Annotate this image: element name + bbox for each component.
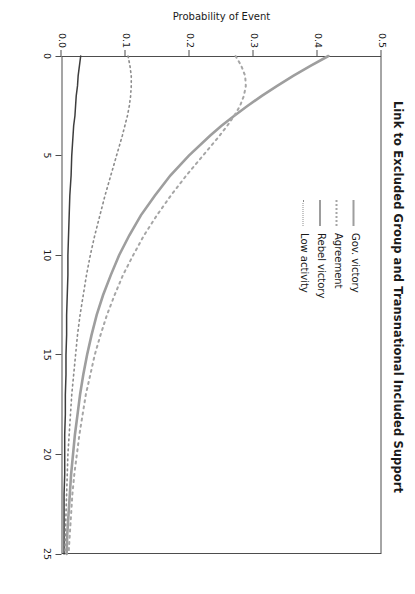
x-tick-mark: [55, 554, 61, 555]
y-tick-label: 0.0: [56, 10, 67, 48]
chart-legend: Gov. victory Agreement Rebel victory Low…: [295, 200, 363, 320]
legend-line-icon: [298, 200, 310, 226]
chart-title: Link to Excluded Group and Transnational…: [390, 0, 404, 594]
rotated-figure-frame: Link to Excluded Group and Transnational…: [0, 0, 415, 594]
y-tick-mark: [125, 50, 126, 56]
x-tick-label: 5: [41, 136, 52, 176]
x-tick-mark: [55, 155, 61, 156]
legend-line-icon: [349, 200, 361, 226]
legend-item-label: Gov. victory: [349, 233, 360, 293]
series-line: [66, 56, 328, 554]
x-tick-label: 10: [41, 235, 52, 275]
y-tick-mark: [381, 50, 382, 56]
legend-item: Low activity: [295, 200, 312, 320]
y-tick-label: 0.5: [376, 10, 387, 48]
legend-line-icon: [315, 200, 327, 226]
x-tick-label: 0: [41, 36, 52, 76]
legend-item-label: Rebel victory: [315, 233, 326, 298]
x-tick-mark: [55, 354, 61, 355]
y-tick-mark: [189, 50, 190, 56]
x-tick-label: 20: [41, 434, 52, 474]
x-tick-label: 25: [41, 534, 52, 574]
y-tick-label: 0.1: [120, 10, 131, 48]
legend-item: Gov. victory: [346, 200, 363, 320]
y-tick-mark: [61, 50, 62, 56]
legend-item: Agreement: [329, 200, 346, 320]
legend-item-label: Agreement: [332, 233, 343, 289]
legend-item: Rebel victory: [312, 200, 329, 320]
legend-line-icon: [332, 200, 344, 226]
y-axis-label: Probability of Event: [172, 11, 270, 22]
y-tick-label: 0.4: [312, 10, 323, 48]
series-line: [68, 56, 245, 554]
x-tick-label: 15: [41, 335, 52, 375]
chart-canvas: Link to Excluded Group and Transnational…: [0, 0, 415, 594]
legend-item-label: Low activity: [298, 233, 309, 293]
x-tick-mark: [55, 454, 61, 455]
x-tick-mark: [55, 255, 61, 256]
y-tick-mark: [253, 50, 254, 56]
y-tick-mark: [317, 50, 318, 56]
